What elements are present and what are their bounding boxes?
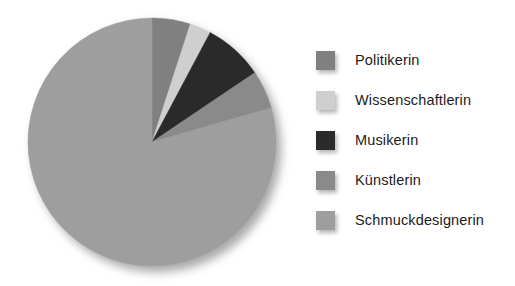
pie-plot-area	[12, 2, 297, 284]
legend-label-politikerin: Politikerin	[355, 53, 420, 68]
legend-swatch-schmuckdesignerin	[316, 211, 335, 230]
pie-svg	[12, 2, 297, 284]
legend-item-wissenschaftlerin: Wissenschaftlerin	[316, 80, 512, 120]
legend-swatch-kuenstlerin	[316, 171, 335, 190]
legend-label-schmuckdesignerin: Schmuckdesignerin	[355, 213, 484, 228]
legend-label-musikerin: Musikerin	[355, 133, 418, 148]
legend-label-kuenstlerin: Künstlerin	[355, 173, 421, 188]
legend-swatch-musikerin	[316, 131, 335, 150]
legend-item-kuenstlerin: Künstlerin	[316, 160, 512, 200]
legend-item-schmuckdesignerin: Schmuckdesignerin	[316, 200, 512, 240]
chart-legend: Politikerin Wissenschaftlerin Musikerin …	[316, 40, 512, 240]
legend-item-musikerin: Musikerin	[316, 120, 512, 160]
legend-swatch-wissenschaftlerin	[316, 91, 335, 110]
pie-slice-group	[28, 18, 276, 266]
legend-label-wissenschaftlerin: Wissenschaftlerin	[355, 93, 471, 108]
legend-item-politikerin: Politikerin	[316, 40, 512, 80]
pie-chart-figure: Politikerin Wissenschaftlerin Musikerin …	[0, 0, 515, 286]
legend-swatch-politikerin	[316, 51, 335, 70]
